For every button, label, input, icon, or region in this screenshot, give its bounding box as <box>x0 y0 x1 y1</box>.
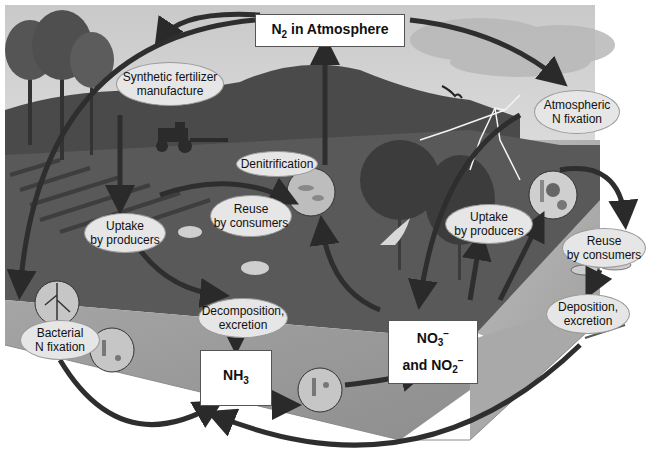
oval-line: Atmospheric <box>544 98 611 112</box>
n2-atmosphere-box: N2 in Atmosphere <box>255 14 405 47</box>
root-nodules-circle <box>35 281 79 325</box>
uptake-by-producers-land-label: Uptake by producers <box>84 213 166 253</box>
oval-line: Reuse <box>234 202 269 216</box>
decomposition-excretion-label: Decomposition, excretion <box>198 298 288 338</box>
bacterial-fixation-label: Bacterial N fixation <box>20 320 100 360</box>
oval-line: Uptake <box>106 219 144 233</box>
uptake-by-producers-water-label: Uptake by producers <box>445 204 533 244</box>
no2-symbol: and NO <box>402 357 452 373</box>
no2-charge: − <box>458 355 464 366</box>
n2-label-text: in Atmosphere <box>287 21 388 37</box>
oval-line: N fixation <box>35 340 85 354</box>
oval-line: Denitrification <box>241 157 314 171</box>
oval-line: excretion <box>219 318 268 332</box>
nh3-subscript: 3 <box>243 375 249 386</box>
oval-line: Reuse <box>587 234 622 248</box>
oval-line: excretion <box>564 314 613 328</box>
n2-symbol: N <box>271 21 281 37</box>
oval-line: N fixation <box>552 112 602 126</box>
nitrifying-bacteria-circle <box>298 368 342 412</box>
no3-symbol: NO <box>417 329 438 345</box>
reuse-by-consumers-water-label: Reuse by consumers <box>562 228 646 268</box>
oval-line: Synthetic fertilizer <box>123 70 218 84</box>
oval-line: manufacture <box>137 84 204 98</box>
nh3-box: NH3 <box>200 350 272 406</box>
deposition-excretion-label: Deposition, excretion <box>546 294 630 334</box>
oval-line: by producers <box>90 233 159 247</box>
no2-subscript: 2 <box>452 364 458 375</box>
denitrification-label: Denitrification <box>236 151 318 177</box>
oval-line: Decomposition, <box>202 304 285 318</box>
atmospheric-fixation-label: Atmospheric N fixation <box>534 90 620 134</box>
oval-line: by producers <box>454 224 523 238</box>
oval-line: by consumers <box>214 216 289 230</box>
nh3-symbol: NH <box>223 367 243 383</box>
synthetic-fertilizer-label: Synthetic fertilizer manufacture <box>116 62 224 106</box>
oval-line: Bacterial <box>37 326 84 340</box>
nitrate-nitrite-box: NO3− and NO2− <box>388 320 478 384</box>
algae-circle <box>529 171 577 219</box>
oval-line: by consumers <box>567 248 642 262</box>
oval-line: Deposition, <box>558 300 618 314</box>
reuse-by-consumers-land-label: Reuse by consumers <box>210 195 292 237</box>
no3-charge: − <box>443 328 449 339</box>
oval-line: Uptake <box>470 210 508 224</box>
